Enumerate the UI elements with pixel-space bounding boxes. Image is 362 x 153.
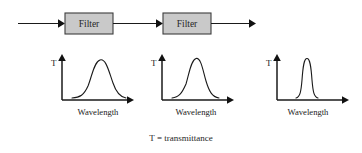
plot-1-x-axis-label: Wavelength — [78, 107, 120, 117]
plot-1-x-axis-arrowhead — [127, 96, 134, 104]
figure-canvas: Filter Filter — [0, 0, 362, 153]
filter-box-1[interactable]: Filter — [65, 13, 113, 34]
filter-box-2[interactable]: Filter — [163, 13, 211, 34]
plot-2-y-axis-label: T — [151, 58, 157, 68]
figure-caption: T = transmittance — [149, 133, 212, 143]
filter-box-1-label: Filter — [79, 19, 100, 29]
input-arrow — [18, 19, 65, 28]
plot-2-x-axis-label: Wavelength — [176, 107, 218, 117]
plot-3-x-axis-arrowhead — [342, 96, 349, 104]
plot-2-transmittance-curve — [172, 58, 219, 98]
plot-3-y-axis-label: T — [266, 58, 272, 68]
plot-3-y-axis-arrowhead — [273, 54, 281, 61]
interstage-arrow-head — [156, 19, 163, 28]
plot-3-x-axis-label: Wavelength — [288, 107, 330, 117]
plot-after-filter-2: T Wavelength — [266, 54, 349, 117]
plot-after-source: T Wavelength — [51, 54, 134, 117]
output-arrow-head — [249, 19, 256, 28]
plot-2-y-axis-arrowhead — [158, 54, 166, 61]
plot-1-y-axis-arrowhead — [58, 54, 66, 61]
plot-3-transmittance-curve — [296, 59, 318, 99]
filter-transmittance-figure: Filter Filter — [0, 0, 362, 153]
plot-after-filter-1: T Wavelength — [151, 54, 234, 117]
plot-2-x-axis-arrowhead — [227, 96, 234, 104]
plot-1-y-axis-label: T — [51, 58, 57, 68]
output-arrow — [211, 19, 256, 28]
flow-diagram: Filter Filter — [18, 13, 256, 34]
interstage-arrow — [113, 19, 163, 28]
filter-box-2-label: Filter — [177, 19, 198, 29]
input-arrow-head — [58, 19, 65, 28]
plot-1-transmittance-curve — [72, 60, 126, 98]
